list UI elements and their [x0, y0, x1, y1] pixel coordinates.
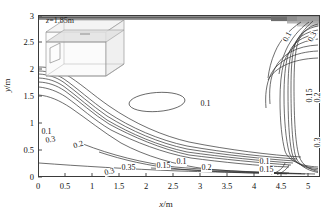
y-axis-title: y/m — [2, 78, 12, 92]
x-axis-unit: /m — [163, 199, 173, 209]
y-axis-var: y — [2, 88, 12, 92]
inset-plane-value: 1.85m — [54, 16, 74, 25]
contour-figure: 0.1 0.3 0.2 0.3 0.35 0.15 0.1 0.2 0.1 0.… — [0, 0, 332, 218]
y-axis-unit: /m — [2, 78, 12, 88]
room-geometry-inset — [40, 16, 138, 88]
x-axis-title: x/m — [0, 199, 332, 209]
inset-plane-label: z=1.85m — [46, 16, 74, 25]
